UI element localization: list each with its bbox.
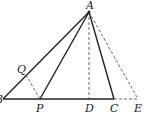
segment-AC <box>89 12 114 99</box>
segment-AP <box>40 12 89 99</box>
segment-PQ-dashed <box>26 75 40 99</box>
label-C: C <box>110 102 119 115</box>
geometry-diagram: A B P D C E Q <box>0 0 150 123</box>
segment-AE-dashed <box>89 12 138 99</box>
segment-AB <box>3 12 89 99</box>
label-Q: Q <box>17 63 26 76</box>
label-A: A <box>85 0 94 12</box>
label-P: P <box>35 102 44 115</box>
label-D: D <box>84 102 94 115</box>
label-E: E <box>133 102 142 115</box>
label-B: B <box>0 93 3 106</box>
